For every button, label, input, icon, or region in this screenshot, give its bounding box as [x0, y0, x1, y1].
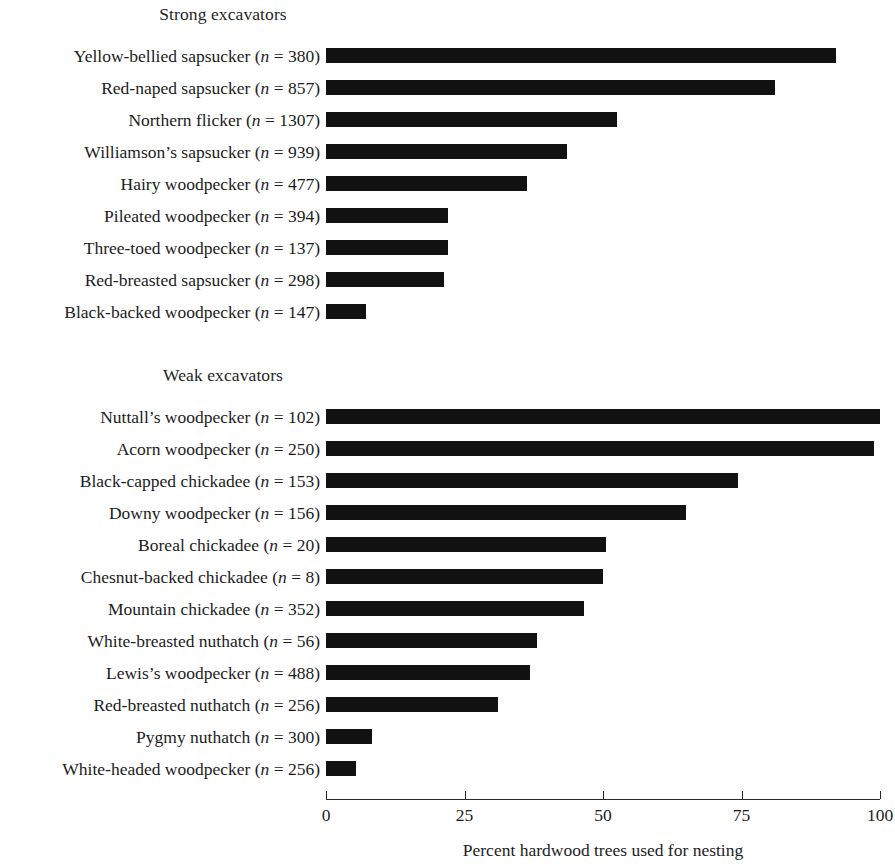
bar [326, 80, 775, 95]
bar-row-label: Red-naped sapsucker (n = 857) [0, 77, 320, 99]
bar-row: Pileated woodpecker (n = 394) [0, 205, 895, 231]
x-axis-tick [465, 791, 466, 799]
bar-chart-figure: Strong excavators Weak excavators Yellow… [0, 0, 895, 867]
bar [326, 665, 530, 680]
bar [326, 240, 448, 255]
bar [326, 112, 617, 127]
bar-row: Pygmy nuthatch (n = 300) [0, 726, 895, 752]
x-axis-tick-label: 0 [322, 805, 331, 826]
bar-row-label: Downy woodpecker (n = 156) [0, 502, 320, 524]
x-axis-tick-label: 50 [594, 805, 612, 826]
bar-row-label: Williamson’s sapsucker (n = 939) [0, 141, 320, 163]
bar-row: Red-naped sapsucker (n = 857) [0, 77, 895, 103]
bar-row-label: Nuttall’s woodpecker (n = 102) [0, 406, 320, 428]
bar [326, 272, 444, 287]
bar-row-label: Red-breasted sapsucker (n = 298) [0, 269, 320, 291]
bar-row-label: Yellow-bellied sapsucker (n = 380) [0, 45, 320, 67]
x-axis-line [326, 799, 880, 800]
bar-row-label: White-breasted nuthatch (n = 56) [0, 630, 320, 652]
bar-row: Chesnut-backed chickadee (n = 8) [0, 566, 895, 592]
bar-row: Acorn woodpecker (n = 250) [0, 438, 895, 464]
bar-row-label: Chesnut-backed chickadee (n = 8) [0, 566, 320, 588]
section-title-weak-excavators: Weak excavators [0, 365, 446, 386]
bar-row-label: Red-breasted nuthatch (n = 256) [0, 694, 320, 716]
bar [326, 304, 366, 319]
bar [326, 537, 606, 552]
bar-row: Downy woodpecker (n = 156) [0, 502, 895, 528]
bar-row: Black-capped chickadee (n = 153) [0, 470, 895, 496]
x-axis-tick [326, 791, 327, 799]
x-axis-tick [880, 791, 881, 799]
bar [326, 697, 498, 712]
bar [326, 633, 537, 648]
bar-row-label: Pileated woodpecker (n = 394) [0, 205, 320, 227]
bar-row-label: Hairy woodpecker (n = 477) [0, 173, 320, 195]
x-axis-tick [603, 791, 604, 799]
section-title-strong-excavators: Strong excavators [0, 4, 446, 25]
bar-row: Nuttall’s woodpecker (n = 102) [0, 406, 895, 432]
bar-row: White-headed woodpecker (n = 256) [0, 758, 895, 784]
bar [326, 473, 738, 488]
bar-row: Three-toed woodpecker (n = 137) [0, 237, 895, 263]
bar [326, 176, 527, 191]
x-axis-tick-label: 100 [867, 805, 893, 826]
bar [326, 441, 874, 456]
bar [326, 569, 603, 584]
bar-row-label: Mountain chickadee (n = 352) [0, 598, 320, 620]
bar [326, 409, 880, 424]
bar [326, 505, 686, 520]
x-axis [326, 799, 880, 800]
bar-row-label: White-headed woodpecker (n = 256) [0, 758, 320, 780]
bar-row: Williamson’s sapsucker (n = 939) [0, 141, 895, 167]
bar-row: Lewis’s woodpecker (n = 488) [0, 662, 895, 688]
bar-row-label: Black-capped chickadee (n = 153) [0, 470, 320, 492]
bar-row: Mountain chickadee (n = 352) [0, 598, 895, 624]
bar-row: White-breasted nuthatch (n = 56) [0, 630, 895, 656]
bar-row: Red-breasted nuthatch (n = 256) [0, 694, 895, 720]
x-axis-tick [742, 791, 743, 799]
x-axis-tick-label: 25 [456, 805, 474, 826]
bar-row-label: Lewis’s woodpecker (n = 488) [0, 662, 320, 684]
bar [326, 48, 836, 63]
bar [326, 601, 584, 616]
bar-row-label: Black-backed woodpecker (n = 147) [0, 301, 320, 323]
x-axis-tick-label: 75 [733, 805, 751, 826]
bar-row-label: Pygmy nuthatch (n = 300) [0, 726, 320, 748]
bar-row: Hairy woodpecker (n = 477) [0, 173, 895, 199]
bar [326, 208, 448, 223]
bar-row-label: Northern flicker (n = 1307) [0, 109, 320, 131]
bar-row: Northern flicker (n = 1307) [0, 109, 895, 135]
bar [326, 729, 372, 744]
bar-row-label: Three-toed woodpecker (n = 137) [0, 237, 320, 259]
x-axis-title: Percent hardwood trees used for nesting [326, 840, 880, 861]
bar-row-label: Acorn woodpecker (n = 250) [0, 438, 320, 460]
bar [326, 761, 356, 776]
bar [326, 144, 567, 159]
bar-row-label: Boreal chickadee (n = 20) [0, 534, 320, 556]
bar-row: Black-backed woodpecker (n = 147) [0, 301, 895, 327]
bar-row: Red-breasted sapsucker (n = 298) [0, 269, 895, 295]
bar-row: Boreal chickadee (n = 20) [0, 534, 895, 560]
bar-row: Yellow-bellied sapsucker (n = 380) [0, 45, 895, 71]
